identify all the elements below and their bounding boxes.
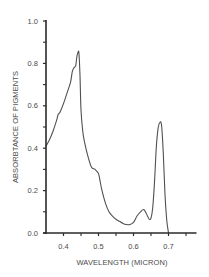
y-axis-title: ABSORBTANCE OF PIGMENTS bbox=[11, 71, 20, 183]
y-tick-label: 1.0 bbox=[28, 17, 38, 26]
x-ticks: 0.40.50.60.7 bbox=[58, 233, 186, 251]
x-tick-label: 0.6 bbox=[128, 242, 138, 251]
y-tick-label: 0.0 bbox=[28, 229, 38, 238]
y-tick-label: 0.2 bbox=[28, 186, 38, 195]
y-tick-label: 0.8 bbox=[28, 59, 38, 68]
plot-area bbox=[46, 51, 169, 233]
x-tick-label: 0.4 bbox=[58, 242, 68, 251]
absorbtance-curve bbox=[46, 51, 169, 233]
absorbtance-chart: 0.00.20.40.60.81.0 0.40.50.60.7 WAVELENG… bbox=[0, 0, 209, 277]
y-ticks: 0.00.20.40.60.81.0 bbox=[28, 17, 46, 238]
x-tick-label: 0.5 bbox=[93, 242, 103, 251]
x-tick-label: 0.7 bbox=[163, 242, 173, 251]
y-tick-label: 0.6 bbox=[28, 101, 38, 110]
y-tick-label: 0.4 bbox=[28, 144, 38, 153]
x-axis-title: WAVELENGTH (MICRON) bbox=[76, 258, 167, 267]
